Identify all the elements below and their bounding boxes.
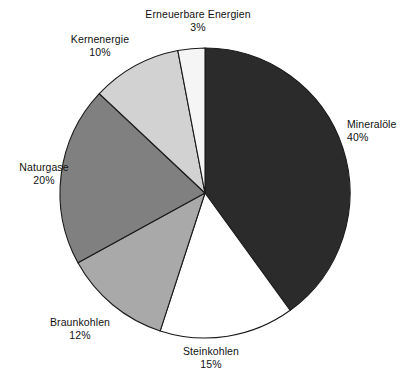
slice-label-erneuerbare-name: Erneuerbare Energien <box>136 8 260 21</box>
slice-label-erneuerbare-value: 3% <box>136 21 260 34</box>
slice-label-braunkohlen-value: 12% <box>33 329 127 342</box>
slice-label-braunkohlen: Braunkohlen 12% <box>33 316 127 342</box>
pie-chart: Erneuerbare Energien 3% Kernenergie 10% … <box>0 0 409 378</box>
slice-label-mineraloele-value: 40% <box>347 131 409 144</box>
slice-label-steinkohlen-value: 15% <box>162 358 260 371</box>
slice-label-naturgase: Naturgase 20% <box>4 161 84 187</box>
slice-label-kernenergie: Kernenergie 10% <box>52 33 148 59</box>
slice-label-mineraloele: Mineralöle 40% <box>347 118 409 144</box>
slice-label-erneuerbare: Erneuerbare Energien 3% <box>136 8 260 34</box>
slice-label-naturgase-value: 20% <box>4 174 84 187</box>
slice-label-braunkohlen-name: Braunkohlen <box>33 316 127 329</box>
slice-label-kernenergie-name: Kernenergie <box>52 33 148 46</box>
slice-label-steinkohlen: Steinkohlen 15% <box>162 345 260 371</box>
slice-label-naturgase-name: Naturgase <box>4 161 84 174</box>
slice-label-mineraloele-name: Mineralöle <box>347 118 409 131</box>
slice-label-steinkohlen-name: Steinkohlen <box>162 345 260 358</box>
pie-slices-group <box>60 48 350 338</box>
slice-label-kernenergie-value: 10% <box>52 46 148 59</box>
